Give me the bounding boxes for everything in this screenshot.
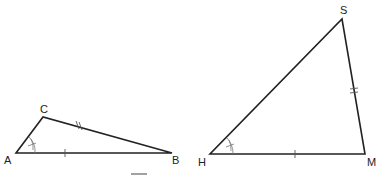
triangle-abc — [16, 117, 172, 157]
diagram-canvas: A B C H M S — [0, 0, 382, 177]
label-s: S — [340, 4, 347, 16]
triangle-abc-outline — [16, 117, 172, 153]
angle-mark-h — [226, 138, 234, 154]
label-a: A — [4, 154, 12, 166]
triangle-hms — [210, 19, 365, 158]
label-c: C — [40, 103, 48, 115]
label-m: M — [367, 156, 376, 168]
double-tick-cb — [76, 121, 82, 130]
label-b: B — [172, 154, 179, 166]
triangle-hms-outline — [210, 19, 365, 154]
label-h: H — [198, 156, 206, 168]
angle-mark-a — [28, 137, 36, 153]
